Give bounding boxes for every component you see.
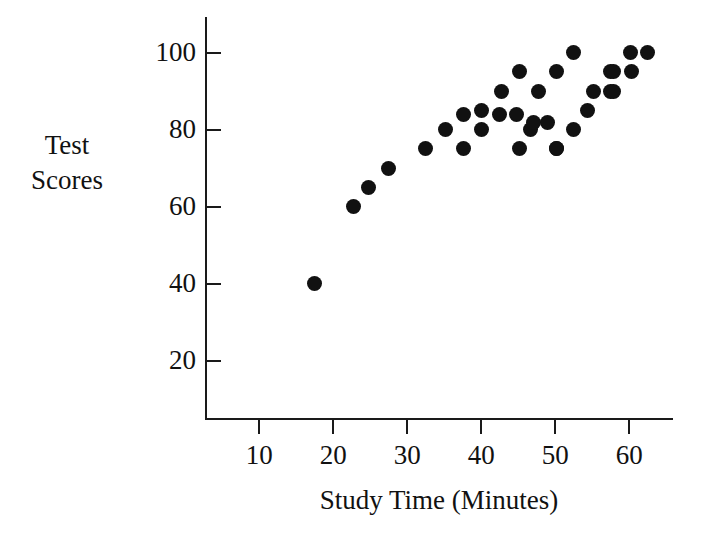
data-point	[640, 45, 655, 60]
data-point	[624, 64, 639, 79]
data-point	[494, 84, 509, 99]
data-point	[307, 276, 322, 291]
data-point	[526, 115, 541, 130]
data-point	[606, 84, 621, 99]
data-point	[512, 141, 527, 156]
data-point	[418, 141, 433, 156]
data-point	[474, 103, 489, 118]
data-point	[540, 115, 555, 130]
data-point	[438, 122, 453, 137]
data-point	[606, 64, 621, 79]
data-point	[509, 107, 524, 122]
data-point	[492, 107, 507, 122]
data-point	[381, 161, 396, 176]
data-point	[531, 84, 546, 99]
data-point	[586, 84, 601, 99]
data-point	[566, 122, 581, 137]
data-point	[580, 103, 595, 118]
data-point	[549, 64, 564, 79]
data-point	[512, 64, 527, 79]
data-point	[456, 107, 471, 122]
plot-area	[0, 0, 702, 542]
data-point	[549, 141, 564, 156]
scatter-plot-figure: 20406080100 102030405060 TestScores Stud…	[0, 0, 702, 542]
data-point	[474, 122, 489, 137]
data-point	[623, 45, 638, 60]
data-point	[361, 180, 376, 195]
data-point	[346, 199, 361, 214]
data-point	[566, 45, 581, 60]
data-point	[456, 141, 471, 156]
